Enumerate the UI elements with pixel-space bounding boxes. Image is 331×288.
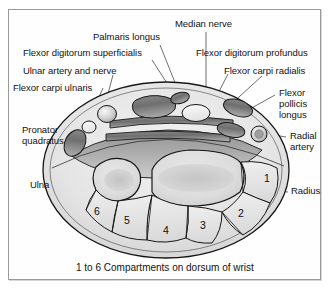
median-nerve-structure <box>182 105 210 122</box>
label-ulnar-artery-and-nerve: Ulnar artery and nerve <box>23 66 116 77</box>
label-radius: Radius <box>291 186 320 197</box>
label-flexor-pollicis-longus-line1: Flexor <box>279 88 305 99</box>
compartment-number-1: 1 <box>264 172 270 184</box>
label-flexor-digitorum-superficialis: Flexor digitorum superficialis <box>23 48 142 59</box>
wrist-cross-section-figure: Median nerve Palmaris longus Flexor digi… <box>0 0 331 288</box>
compartment-number-5: 5 <box>124 214 130 226</box>
ulna-marrow <box>104 169 134 191</box>
label-palmaris-longus: Palmaris longus <box>93 32 160 43</box>
compartment-number-3: 3 <box>200 219 206 231</box>
label-flexor-pollicis-longus-line2: pollicis <box>279 99 307 110</box>
label-pronator-quadratus-line1: Pronator <box>22 125 58 136</box>
flexor-carpi-ulnaris-tendon <box>98 106 117 123</box>
figure-caption: 1 to 6 Compartments on dorsum of wrist <box>76 262 254 273</box>
label-flexor-pollicis-longus-line3: longus <box>279 110 307 121</box>
palmaris-longus-tendon <box>132 96 175 118</box>
ulnar-artery-and-nerve-structure <box>82 121 96 133</box>
radial-artery-lumen <box>255 130 263 138</box>
radius-marrow <box>158 164 234 192</box>
compartment-number-2: 2 <box>238 207 244 219</box>
compartment-number-4: 4 <box>163 224 169 236</box>
label-radial-artery-line2: artery <box>290 142 314 153</box>
label-ulna: Ulna <box>30 180 49 191</box>
label-radial-artery-line1: Radial <box>290 131 317 142</box>
label-median-nerve: Median nerve <box>175 19 232 30</box>
label-flexor-carpi-radialis: Flexor carpi radialis <box>224 66 305 77</box>
label-pronator-quadratus-line2: quadratus <box>22 136 64 147</box>
label-flexor-carpi-ulnaris: Flexor carpi ulnaris <box>13 83 92 94</box>
compartment-number-6: 6 <box>94 205 100 217</box>
label-flexor-digitorum-profundus: Flexor digitorum profundus <box>196 48 308 59</box>
